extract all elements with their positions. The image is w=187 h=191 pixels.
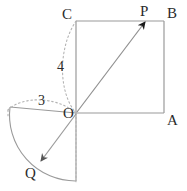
measure-label-4: 4	[57, 60, 64, 74]
point-label-B: B	[167, 6, 177, 21]
point-label-P: P	[140, 4, 148, 19]
ray-o-to-q	[41, 114, 76, 161]
point-label-O: O	[63, 106, 74, 121]
dotted-arc-c-to-o	[63, 21, 77, 113]
point-label-Q: Q	[25, 166, 36, 181]
ray-o-to-p	[77, 22, 145, 112]
square-oabc	[76, 21, 164, 113]
geometry-figure: C P B A O Q 4 3	[0, 0, 187, 191]
point-label-C: C	[62, 7, 72, 22]
measure-label-3: 3	[38, 94, 45, 108]
figure-canvas	[0, 0, 187, 191]
point-label-A: A	[167, 113, 178, 128]
